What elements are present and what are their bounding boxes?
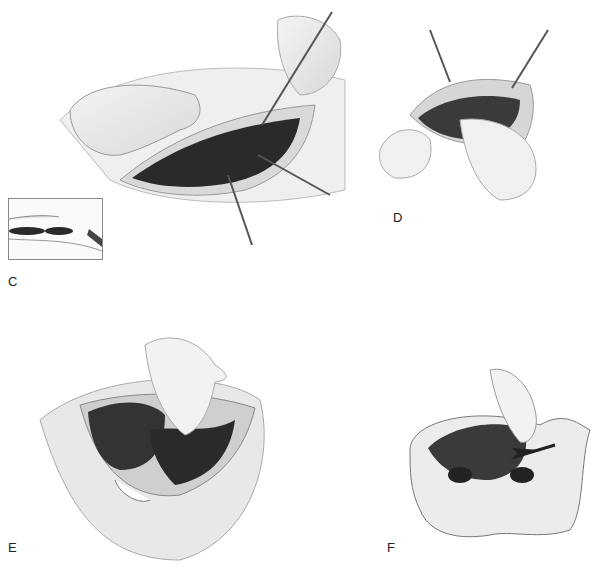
- panel-e: E: [0, 320, 310, 571]
- exploration-illustration: [360, 0, 600, 240]
- pelvis-section-illustration: [380, 330, 600, 571]
- cross-section-inset: [8, 198, 103, 260]
- panel-label-c: C: [8, 274, 17, 289]
- panel-f: F: [380, 330, 600, 571]
- panel-d: D: [360, 0, 600, 240]
- inset-illustration: [9, 199, 102, 259]
- pelvis-hand-illustration: [0, 320, 310, 571]
- panel-label-e: E: [8, 540, 17, 555]
- panel-label-f: F: [387, 540, 395, 555]
- panel-label-d: D: [393, 210, 402, 225]
- panel-c: C: [0, 0, 360, 290]
